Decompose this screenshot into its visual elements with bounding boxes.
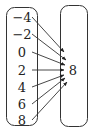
domain-value: −4 bbox=[12, 10, 31, 25]
range-value: 8 bbox=[69, 63, 77, 78]
mapping-diagram: −4 −2 0 2 4 6 8 8 bbox=[0, 0, 89, 132]
domain-value: −2 bbox=[12, 27, 31, 42]
mapping-arrow bbox=[32, 75, 64, 87]
domain-value: 6 bbox=[18, 97, 26, 112]
domain-value: 4 bbox=[18, 80, 26, 95]
domain-value: 8 bbox=[18, 113, 26, 128]
domain-value: 0 bbox=[18, 45, 26, 60]
domain-value: 2 bbox=[18, 63, 26, 78]
